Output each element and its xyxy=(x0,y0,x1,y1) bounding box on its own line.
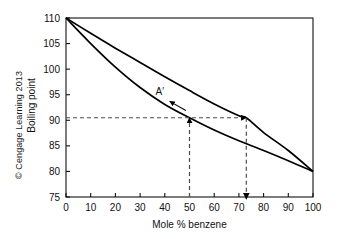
x-tick-label: 0 xyxy=(63,202,69,213)
y-tick-label: 110 xyxy=(44,13,60,24)
x-tick-label: 30 xyxy=(135,202,147,213)
y-tick-label: 75 xyxy=(49,192,61,203)
x-tick-label: 50 xyxy=(184,202,196,213)
x-tick-label: 20 xyxy=(110,202,122,213)
plot-frame xyxy=(66,18,313,197)
y-axis-label: Boiling point xyxy=(26,51,37,161)
x-tick-label: 90 xyxy=(283,202,295,213)
figure-container: © Cengage Learning 2013 Boiling point Mo… xyxy=(0,0,339,239)
x-tick-label: 40 xyxy=(159,202,171,213)
x-tick-label: 60 xyxy=(209,202,221,213)
x-tick-label: 80 xyxy=(258,202,270,213)
a-prime-label: A′ xyxy=(156,86,165,97)
x-axis-label: Mole % benzene xyxy=(66,219,313,230)
y-tick-label: 80 xyxy=(49,166,61,177)
boiling-point-phase-diagram: 7580859095100105110 01020304050607080901… xyxy=(0,0,339,239)
y-tick-label: 85 xyxy=(49,140,61,151)
x-tick-label: 70 xyxy=(233,202,245,213)
y-tick-label: 90 xyxy=(49,115,61,126)
copyright-notice: © Cengage Learning 2013 xyxy=(14,40,24,210)
y-tick-label: 95 xyxy=(49,89,61,100)
y-tick-label: 105 xyxy=(43,38,60,49)
plot-area-border xyxy=(66,18,313,197)
x-tick-label: 100 xyxy=(305,202,322,213)
x-tick-label: 10 xyxy=(85,202,97,213)
y-tick-label: 100 xyxy=(43,64,60,75)
